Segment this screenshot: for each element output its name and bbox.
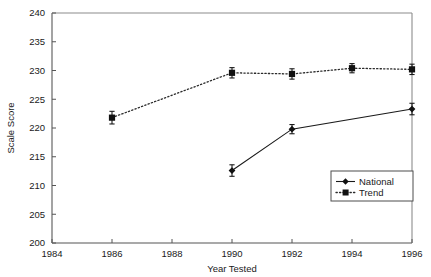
data-point-trend (229, 70, 235, 76)
y-axis-tick-label: 220 (29, 122, 45, 133)
data-point-national (409, 106, 416, 113)
data-point-trend (289, 71, 295, 77)
y-axis-tick-label: 200 (29, 237, 45, 248)
data-point-trend (349, 65, 355, 71)
y-axis-tick-label: 235 (29, 36, 45, 47)
legend-label-trend: Trend (359, 187, 383, 198)
y-axis-title: Scale Score (5, 102, 16, 153)
y-axis-tick-label: 230 (29, 65, 45, 76)
x-axis-tick-label: 1988 (161, 248, 182, 259)
y-axis-tick-label: 205 (29, 209, 45, 220)
y-axis-tick-label: 225 (29, 94, 45, 105)
x-axis-tick-label: 1994 (341, 248, 362, 259)
y-axis-tick-label: 240 (29, 7, 45, 18)
y-axis-tick-label: 215 (29, 151, 45, 162)
scale-score-line-chart: 2002052102152202252302352401984198619881… (0, 0, 431, 277)
x-axis-tick-label: 1986 (101, 248, 122, 259)
series-line-national (232, 109, 412, 171)
chart-container: 2002052102152202252302352401984198619881… (0, 0, 431, 277)
data-point-national (229, 167, 236, 174)
legend-marker-trend (343, 190, 349, 196)
x-axis-tick-label: 1996 (401, 248, 422, 259)
data-point-trend (109, 115, 115, 121)
x-axis-title: Year Tested (207, 263, 257, 274)
data-point-national (289, 126, 296, 133)
x-axis-tick-label: 1984 (41, 248, 62, 259)
data-point-trend (409, 66, 415, 72)
series-line-trend (112, 68, 412, 117)
x-axis-tick-label: 1992 (281, 248, 302, 259)
x-axis-tick-label: 1990 (221, 248, 242, 259)
y-axis-tick-label: 210 (29, 180, 45, 191)
legend-label-national: National (359, 176, 394, 187)
